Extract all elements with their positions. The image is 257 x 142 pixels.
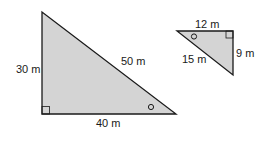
small-hypotenuse-label: 15 m [182, 53, 206, 65]
large-base-label: 40 m [96, 117, 120, 129]
large-triangle: 30 m 50 m 40 m [16, 12, 176, 129]
large-triangle-shape [42, 12, 176, 114]
large-vertical-label: 30 m [16, 63, 40, 75]
small-top-label: 12 m [195, 18, 219, 30]
small-vertical-label: 9 m [236, 47, 254, 59]
similar-triangles-diagram: 30 m 50 m 40 m 12 m 9 m 15 m [0, 0, 257, 142]
large-hypotenuse-label: 50 m [121, 55, 145, 67]
small-triangle: 12 m 9 m 15 m [177, 18, 254, 75]
